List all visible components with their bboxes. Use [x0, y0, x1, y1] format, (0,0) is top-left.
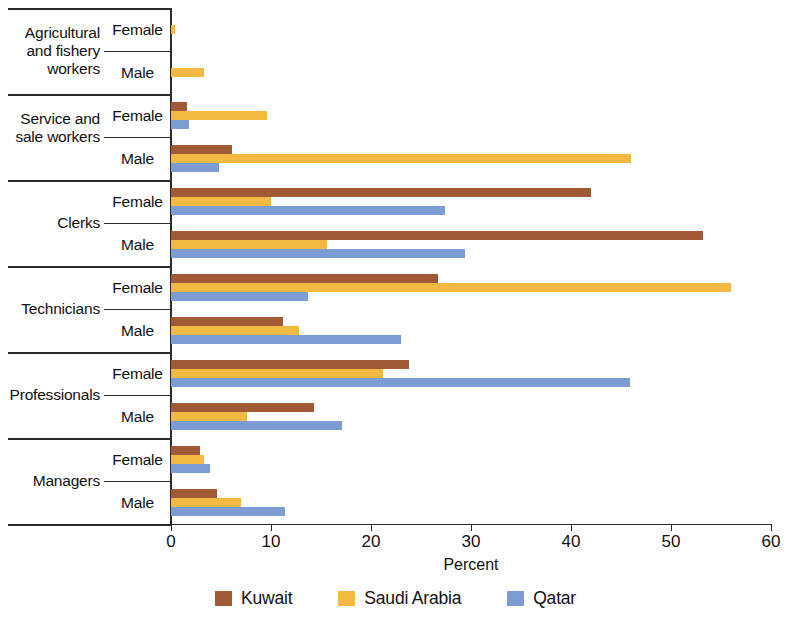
- bar-agricultural-and-fishery-workers-male-saudi-arabia: [171, 68, 204, 77]
- bar-managers-female-kuwait: [171, 446, 200, 455]
- sex-label-agricultural-and-fishery-workers-male: Male: [104, 64, 171, 82]
- bar-technicians-female-kuwait: [171, 274, 438, 283]
- bar-technicians-female-saudi-arabia: [171, 283, 731, 292]
- x-tick-label-10: 10: [251, 532, 291, 552]
- bar-clerks-male-qatar: [171, 249, 465, 258]
- sex-label-technicians-female: Female: [104, 279, 171, 297]
- bar-technicians-male-kuwait: [171, 317, 283, 326]
- group-label-1: Agricultural and fishery workers: [8, 24, 100, 78]
- bar-technicians-male-saudi-arabia: [171, 326, 299, 335]
- bar-clerks-male-saudi-arabia: [171, 240, 327, 249]
- group-label-3: Clerks: [8, 214, 100, 232]
- sex-divider-5: [104, 395, 171, 396]
- bar-clerks-female-qatar: [171, 206, 445, 215]
- bar-managers-male-saudi-arabia: [171, 498, 241, 507]
- group-label-5: Professionals: [8, 386, 100, 404]
- bar-chart: Agricultural and fishery workersFemaleMa…: [0, 0, 791, 619]
- group-label-4: Technicians: [8, 300, 100, 318]
- bar-clerks-female-kuwait: [171, 188, 591, 197]
- x-tick-label-20: 20: [351, 532, 391, 552]
- bar-professionals-male-kuwait: [171, 403, 314, 412]
- x-tick-label-50: 50: [651, 532, 691, 552]
- bar-service-and-sale-workers-female-kuwait: [171, 102, 187, 111]
- bar-service-and-sale-workers-female-saudi-arabia: [171, 111, 267, 120]
- group-divider: [8, 438, 171, 440]
- bar-managers-male-kuwait: [171, 489, 217, 498]
- x-tick-20: [371, 524, 372, 531]
- sex-divider-2: [104, 137, 171, 138]
- legend-swatch-qatar: [507, 591, 524, 606]
- x-tick-60: [771, 524, 772, 531]
- sex-label-service-and-sale-workers-male: Male: [104, 150, 171, 168]
- bar-professionals-male-qatar: [171, 421, 342, 430]
- x-tick-0: [171, 524, 172, 531]
- bar-technicians-male-qatar: [171, 335, 401, 344]
- sex-divider-1: [104, 51, 171, 52]
- sex-label-agricultural-and-fishery-workers-female: Female: [104, 21, 171, 39]
- sex-label-technicians-male: Male: [104, 322, 171, 340]
- legend-label-saudi-arabia: Saudi Arabia: [364, 588, 461, 609]
- x-tick-10: [271, 524, 272, 531]
- group-divider: [8, 524, 171, 526]
- category-label-column: Agricultural and fishery workersFemaleMa…: [8, 8, 171, 524]
- sex-label-managers-female: Female: [104, 451, 171, 469]
- bar-professionals-female-kuwait: [171, 360, 409, 369]
- group-label-2: Service and sale workers: [8, 110, 100, 146]
- sex-label-professionals-male: Male: [104, 408, 171, 426]
- group-divider: [8, 8, 171, 10]
- legend-item-qatar: Qatar: [507, 588, 576, 609]
- x-tick-50: [671, 524, 672, 531]
- bar-managers-female-qatar: [171, 464, 210, 473]
- x-tick-label-60: 60: [751, 532, 791, 552]
- bar-service-and-sale-workers-male-saudi-arabia: [171, 154, 631, 163]
- bar-managers-male-qatar: [171, 507, 285, 516]
- bar-service-and-sale-workers-female-qatar: [171, 120, 189, 129]
- sex-divider-3: [104, 223, 171, 224]
- legend-item-kuwait: Kuwait: [215, 588, 292, 609]
- group-divider: [8, 352, 171, 354]
- bar-professionals-female-qatar: [171, 378, 630, 387]
- sex-label-managers-male: Male: [104, 494, 171, 512]
- group-divider: [8, 266, 171, 268]
- x-axis-title: Percent: [171, 556, 771, 574]
- legend-swatch-saudi-arabia: [338, 591, 355, 606]
- bar-technicians-female-qatar: [171, 292, 308, 301]
- bar-service-and-sale-workers-male-qatar: [171, 163, 219, 172]
- x-tick-40: [571, 524, 572, 531]
- sex-label-professionals-female: Female: [104, 365, 171, 383]
- bar-service-and-sale-workers-male-kuwait: [171, 145, 232, 154]
- bar-agricultural-and-fishery-workers-female-saudi-arabia: [171, 25, 175, 34]
- bar-professionals-female-saudi-arabia: [171, 369, 383, 378]
- x-tick-label-0: 0: [151, 532, 191, 552]
- group-label-6: Managers: [8, 472, 100, 490]
- bar-clerks-female-saudi-arabia: [171, 197, 271, 206]
- legend-swatch-kuwait: [215, 591, 232, 606]
- x-tick-30: [471, 524, 472, 531]
- group-divider: [8, 180, 171, 182]
- plot-area: 0102030405060: [171, 8, 771, 524]
- x-tick-label-30: 30: [451, 532, 491, 552]
- legend-label-kuwait: Kuwait: [241, 588, 292, 609]
- group-divider: [8, 94, 171, 96]
- x-tick-label-40: 40: [551, 532, 591, 552]
- sex-divider-4: [104, 309, 171, 310]
- sex-divider-6: [104, 481, 171, 482]
- bar-managers-female-saudi-arabia: [171, 455, 204, 464]
- sex-label-service-and-sale-workers-female: Female: [104, 107, 171, 125]
- bar-professionals-male-saudi-arabia: [171, 412, 247, 421]
- legend-label-qatar: Qatar: [533, 588, 576, 609]
- chart-legend: KuwaitSaudi ArabiaQatar: [0, 588, 791, 609]
- sex-label-clerks-female: Female: [104, 193, 171, 211]
- bar-clerks-male-kuwait: [171, 231, 703, 240]
- sex-label-clerks-male: Male: [104, 236, 171, 254]
- legend-item-saudi-arabia: Saudi Arabia: [338, 588, 461, 609]
